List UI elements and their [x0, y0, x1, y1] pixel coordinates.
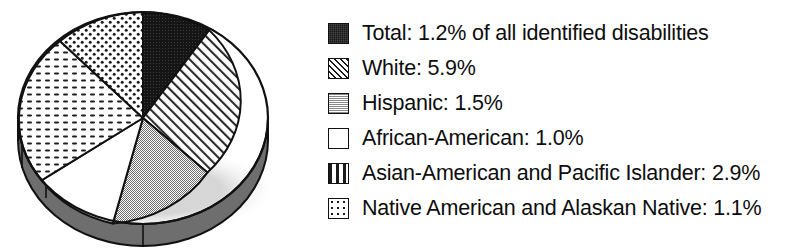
solid-black-swatch-icon [328, 23, 349, 44]
legend-label-asian-american: Asian-American and Pacific Islander: 2.9… [362, 163, 760, 184]
pie-svg [0, 0, 320, 251]
white-swatch-icon [328, 128, 349, 149]
horizontal-dashes-swatch-icon [328, 163, 349, 184]
legend-label-white: White: 5.9% [362, 58, 476, 79]
chart-legend: Total: 1.2% of all identified disabiliti… [320, 0, 796, 226]
pie-chart-graphic [0, 0, 320, 251]
legend-item-hispanic: Hispanic: 1.5% [328, 86, 796, 121]
legend-label-african-american: African-American: 1.0% [362, 128, 583, 149]
legend-item-asian-american: Asian-American and Pacific Islander: 2.9… [328, 156, 796, 191]
diagonal-hatch-swatch-icon [328, 58, 349, 79]
legend-item-total: Total: 1.2% of all identified disabiliti… [328, 16, 796, 51]
dots-swatch-icon [328, 198, 349, 219]
legend-label-hispanic: Hispanic: 1.5% [362, 93, 503, 114]
legend-label-native-american: Native American and Alaskan Native: 1.1% [362, 198, 762, 219]
gray-stipple-swatch-icon [328, 93, 349, 114]
legend-label-total: Total: 1.2% of all identified disabiliti… [362, 23, 709, 44]
legend-item-african-american: African-American: 1.0% [328, 121, 796, 156]
pie-chart-figure: Total: 1.2% of all identified disabiliti… [0, 0, 796, 251]
legend-item-native-american: Native American and Alaskan Native: 1.1% [328, 191, 796, 226]
legend-item-white: White: 5.9% [328, 51, 796, 86]
